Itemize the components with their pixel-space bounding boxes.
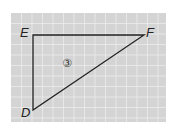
vertex-label-e: E — [20, 25, 29, 40]
vertex-label-f: F — [146, 25, 155, 40]
region-label-circled-3: ③ — [62, 57, 72, 70]
vertex-label-d: D — [21, 105, 30, 120]
triangle-diagram: E F D ③ — [0, 0, 172, 133]
grid-background — [11, 13, 166, 122]
